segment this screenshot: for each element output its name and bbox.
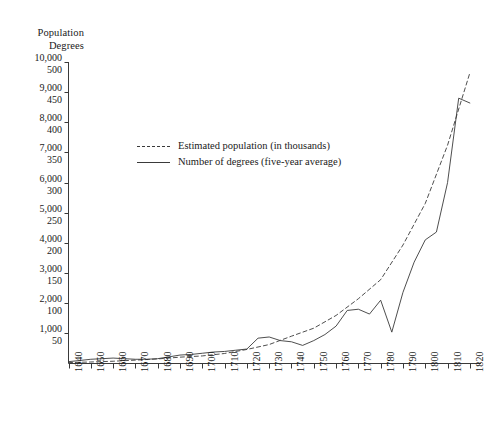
y-tick-label-population: 5,000 <box>0 203 62 214</box>
x-tick-label: 1720 <box>252 351 262 372</box>
y-tick-label-degrees: 300 <box>0 185 62 196</box>
series-line-population <box>69 73 470 363</box>
x-tick-label: 1790 <box>408 351 418 372</box>
x-tick-label: 1740 <box>296 351 306 372</box>
y-tick-label-population: 10,000 <box>0 52 62 63</box>
legend-label-population: Estimated population (in thousands) <box>178 140 330 152</box>
x-tick-label: 1700 <box>207 351 217 372</box>
y-tick-label-population: 4,000 <box>0 233 62 244</box>
chart-figure: Population Degrees 10,0005009,0004508,00… <box>0 0 491 426</box>
axis-lines <box>69 62 482 364</box>
legend-key-solid-icon <box>137 157 170 167</box>
y-tick-label-degrees: 500 <box>0 64 62 75</box>
y-tick-label-population: 7,000 <box>0 142 62 153</box>
y-tick-label-degrees: 250 <box>0 215 62 226</box>
x-tick-label: 1800 <box>430 351 440 372</box>
chart-legend: Estimated population (in thousands) Numb… <box>137 138 387 170</box>
x-tick-label: 1680 <box>163 351 173 372</box>
x-tick-label: 1810 <box>453 351 463 372</box>
legend-item-degrees: Number of degrees (five-year average) <box>137 154 387 170</box>
y-tick-label-degrees: 100 <box>0 305 62 316</box>
y-tick-label-degrees: 150 <box>0 275 62 286</box>
y-tick-label-population: 9,000 <box>0 82 62 93</box>
x-tick-label: 1650 <box>96 351 106 372</box>
x-tick-label: 1770 <box>363 351 373 372</box>
x-tick-label: 1780 <box>386 351 396 372</box>
x-tick-label: 1710 <box>230 351 240 372</box>
y-tick-label-degrees: 450 <box>0 94 62 105</box>
y-tick-label-degrees: 200 <box>0 245 62 256</box>
data-series-lines <box>69 73 470 363</box>
x-tick-label: 1730 <box>274 351 284 372</box>
x-tick-label: 1760 <box>341 351 351 372</box>
x-tick-label: 1820 <box>475 351 485 372</box>
x-tick-label: 1750 <box>319 351 329 372</box>
legend-label-degrees: Number of degrees (five-year average) <box>178 156 341 168</box>
y-tick-label-population: 8,000 <box>0 112 62 123</box>
legend-key-dashed-icon <box>137 141 170 151</box>
y-tick-label-population: 3,000 <box>0 263 62 274</box>
y-tick-label-population: 2,000 <box>0 293 62 304</box>
y-tick-label-degrees: 50 <box>0 335 62 346</box>
y-tick-label-degrees: 350 <box>0 154 62 165</box>
x-tick-label: 1690 <box>185 351 195 372</box>
y-tick-label-degrees: 400 <box>0 124 62 135</box>
x-tick-label: 1640 <box>74 351 84 372</box>
x-tick-label: 1660 <box>118 351 128 372</box>
legend-item-population: Estimated population (in thousands) <box>137 138 387 154</box>
y-tick-label-population: 1,000 <box>0 323 62 334</box>
y-axis-ticks <box>65 63 69 334</box>
x-tick-label: 1670 <box>140 351 150 372</box>
y-tick-label-population: 6,000 <box>0 173 62 184</box>
